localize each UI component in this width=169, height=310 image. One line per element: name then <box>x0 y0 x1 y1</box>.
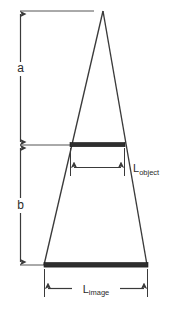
diagram-canvas: a b Lobject Limage <box>0 0 169 310</box>
projection-diagram-figure: a b Lobject Limage <box>0 0 169 310</box>
image-plane-bar <box>44 263 148 268</box>
dimension-a-label: a <box>17 61 24 75</box>
object-plane-bar <box>70 143 125 147</box>
dimension-b-label: b <box>17 198 24 212</box>
image-length-subscript: image <box>89 288 109 297</box>
object-length-subscript: object <box>139 168 160 177</box>
